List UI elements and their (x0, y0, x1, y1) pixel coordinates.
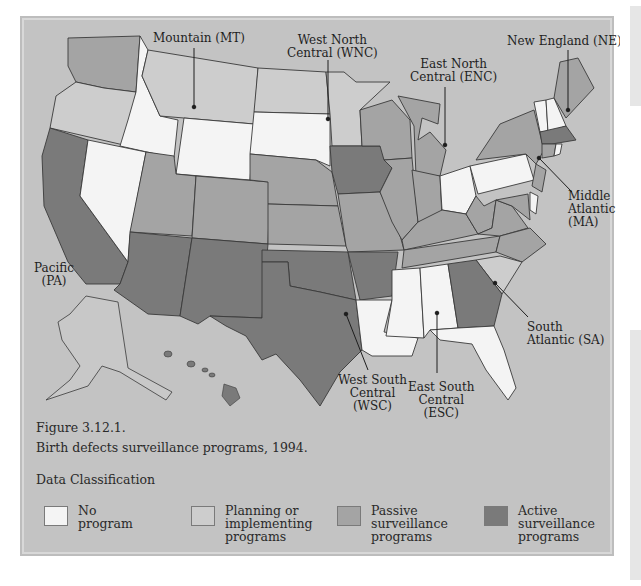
us-map (0, 0, 641, 586)
legend-label: Planning or implementing programs (225, 504, 313, 543)
state-mt (142, 50, 258, 124)
legend-label-line: programs (225, 530, 313, 543)
figure-number: Figure 3.12.1. (36, 420, 126, 435)
state-ks (268, 204, 346, 246)
state-ms (386, 268, 424, 338)
enc-line2: Central (ENC) (410, 71, 497, 84)
legend-swatch-planning (191, 506, 215, 526)
state-hi (164, 351, 240, 406)
legend-label-line: program (78, 517, 133, 530)
region-label-enc: East North Central (ENC) (410, 58, 497, 84)
state-wy (176, 118, 254, 180)
wsc-line3: (WSC) (338, 400, 407, 413)
legend-label: No program (78, 504, 133, 530)
legend-label: Passive surveillance programs (371, 504, 448, 543)
state-ar (348, 252, 398, 300)
state-nm (180, 238, 268, 324)
sa-line2: Atlantic (SA) (527, 334, 604, 347)
pa-line2: (PA) (34, 275, 74, 288)
figure-caption: Birth defects surveillance programs, 199… (36, 440, 308, 455)
legend-title: Data Classification (36, 472, 155, 487)
state-nd (254, 68, 330, 114)
legend-label: Active surveillance programs (518, 504, 595, 543)
region-label-ne: New England (NE) (507, 35, 622, 48)
legend-swatch-active (484, 506, 508, 526)
edge-shade (630, 6, 641, 106)
state-me (554, 58, 594, 118)
ma-line3: (MA) (568, 216, 615, 229)
legend-swatch-passive (337, 506, 361, 526)
region-label-sa: South Atlantic (SA) (527, 321, 604, 347)
region-label-esc: East South Central (ESC) (408, 381, 474, 420)
legend-item-planning: Planning or implementing programs (191, 504, 313, 543)
legend-label-line: programs (518, 530, 595, 543)
state-de (530, 192, 538, 214)
state-nj (532, 164, 546, 192)
state-ny (476, 110, 544, 164)
legend-swatch-no-program (44, 506, 68, 526)
page-edge (620, 0, 641, 586)
legend-item-active: Active surveillance programs (484, 504, 595, 543)
state-co (192, 176, 270, 244)
wnc-line2: Central (WNC) (287, 47, 378, 60)
esc-line3: (ESC) (408, 407, 474, 420)
edge-shade (630, 330, 641, 580)
region-label-mountain: Mountain (MT) (153, 32, 245, 45)
region-label-wsc: West South Central (WSC) (338, 374, 407, 413)
legend-item-no-program: No program (44, 504, 133, 530)
region-label-wnc: West North Central (WNC) (287, 34, 378, 60)
legend-label-line: programs (371, 530, 448, 543)
legend-item-passive: Passive surveillance programs (337, 504, 448, 543)
region-label-pa: Pacific (PA) (34, 262, 74, 288)
region-label-ma: Middle Atlantic (MA) (568, 190, 615, 229)
